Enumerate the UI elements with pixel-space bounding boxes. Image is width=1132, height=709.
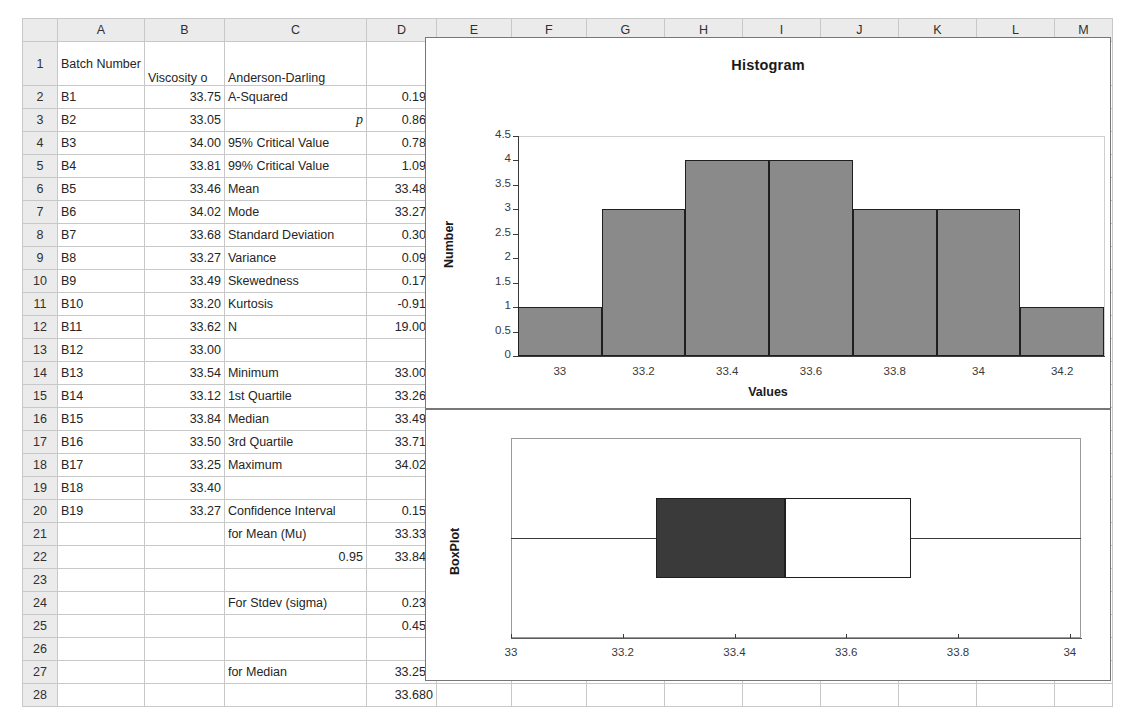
row-header[interactable]: 4 xyxy=(23,132,58,155)
cell-b[interactable]: 33.27 xyxy=(144,247,224,270)
row-header[interactable]: 18 xyxy=(23,454,58,477)
cell-a[interactable]: B17 xyxy=(58,454,145,477)
cell-b[interactable]: 33.54 xyxy=(144,362,224,385)
cell-c[interactable]: Mean xyxy=(224,178,366,201)
cell-c[interactable]: Mode xyxy=(224,201,366,224)
row-header[interactable]: 27 xyxy=(23,661,58,684)
row-header[interactable]: 15 xyxy=(23,385,58,408)
cell-c[interactable] xyxy=(224,684,366,707)
cell-blank-6[interactable] xyxy=(898,684,976,707)
cell-blank-7[interactable] xyxy=(976,684,1054,707)
row-header[interactable]: 20 xyxy=(23,500,58,523)
row-header[interactable]: 14 xyxy=(23,362,58,385)
cell-c[interactable] xyxy=(224,569,366,592)
cell-a[interactable]: B9 xyxy=(58,270,145,293)
cell-a[interactable]: B16 xyxy=(58,431,145,454)
row-header[interactable]: 13 xyxy=(23,339,58,362)
cell-a[interactable] xyxy=(58,569,145,592)
cell-c[interactable]: 0.95 xyxy=(224,546,366,569)
cell-b[interactable]: 33.20 xyxy=(144,293,224,316)
cell-b[interactable]: 33.84 xyxy=(144,408,224,431)
cell-a[interactable]: B7 xyxy=(58,224,145,247)
cell-a[interactable]: B14 xyxy=(58,385,145,408)
cell-a[interactable]: B3 xyxy=(58,132,145,155)
cell-a[interactable]: B1 xyxy=(58,86,145,109)
cell-c[interactable]: Standard Deviation xyxy=(224,224,366,247)
select-all-corner[interactable] xyxy=(23,19,58,42)
cell-c[interactable] xyxy=(224,615,366,638)
row-header[interactable]: 22 xyxy=(23,546,58,569)
cell-b[interactable]: 33.25 xyxy=(144,454,224,477)
cell-c[interactable]: for Median xyxy=(224,661,366,684)
cell-b[interactable]: 33.68 xyxy=(144,224,224,247)
cell-c[interactable]: for Mean (Mu) xyxy=(224,523,366,546)
row-header[interactable]: 17 xyxy=(23,431,58,454)
cell-a[interactable]: B2 xyxy=(58,109,145,132)
cell-c[interactable]: 1st Quartile xyxy=(224,385,366,408)
row-header[interactable]: 12 xyxy=(23,316,58,339)
cell-b[interactable] xyxy=(144,615,224,638)
cell-c[interactable] xyxy=(224,339,366,362)
column-header-b[interactable]: B xyxy=(144,19,224,42)
cell-b[interactable]: 33.81 xyxy=(144,155,224,178)
cell-c[interactable]: Minimum xyxy=(224,362,366,385)
cell-b[interactable] xyxy=(144,523,224,546)
cell-b1[interactable]: Viscosity o xyxy=(144,42,224,86)
boxplot-chart-panel[interactable]: BoxPlot 3333.233.433.633.834 xyxy=(425,409,1111,681)
row-header[interactable]: 6 xyxy=(23,178,58,201)
cell-b[interactable]: 33.40 xyxy=(144,477,224,500)
cell-b[interactable]: 34.02 xyxy=(144,201,224,224)
cell-b[interactable]: 33.00 xyxy=(144,339,224,362)
cell-c[interactable]: 3rd Quartile xyxy=(224,431,366,454)
cell-b[interactable] xyxy=(144,569,224,592)
cell-b[interactable]: 33.75 xyxy=(144,86,224,109)
cell-a[interactable]: B8 xyxy=(58,247,145,270)
cell-c[interactable]: Maximum xyxy=(224,454,366,477)
cell-b[interactable] xyxy=(144,592,224,615)
row-header[interactable]: 8 xyxy=(23,224,58,247)
cell-a[interactable] xyxy=(58,546,145,569)
cell-a[interactable]: B5 xyxy=(58,178,145,201)
cell-c[interactable]: Skewedness xyxy=(224,270,366,293)
cell-a[interactable] xyxy=(58,684,145,707)
cell-a[interactable]: B19 xyxy=(58,500,145,523)
row-header[interactable]: 26 xyxy=(23,638,58,661)
cell-b[interactable]: 33.12 xyxy=(144,385,224,408)
cell-blank-2[interactable] xyxy=(586,684,664,707)
cell-d[interactable]: 33.680 xyxy=(366,684,436,707)
cell-blank-4[interactable] xyxy=(742,684,820,707)
cell-a[interactable] xyxy=(58,592,145,615)
row-header[interactable]: 2 xyxy=(23,86,58,109)
cell-c[interactable]: Confidence Interval xyxy=(224,500,366,523)
cell-c[interactable] xyxy=(224,638,366,661)
cell-a[interactable]: B12 xyxy=(58,339,145,362)
cell-a[interactable]: B6 xyxy=(58,201,145,224)
row-header[interactable]: 1 xyxy=(23,42,58,86)
cell-c[interactable]: 95% Critical Value xyxy=(224,132,366,155)
cell-c[interactable] xyxy=(224,477,366,500)
row-header[interactable]: 10 xyxy=(23,270,58,293)
cell-c[interactable]: A-Squared xyxy=(224,86,366,109)
cell-b[interactable] xyxy=(144,638,224,661)
cell-a[interactable]: B10 xyxy=(58,293,145,316)
cell-b[interactable] xyxy=(144,661,224,684)
cell-a[interactable]: B4 xyxy=(58,155,145,178)
row-header[interactable]: 19 xyxy=(23,477,58,500)
cell-blank-5[interactable] xyxy=(820,684,898,707)
row-header[interactable]: 21 xyxy=(23,523,58,546)
cell-blank-1[interactable] xyxy=(511,684,586,707)
table-row[interactable]: 2833.680 xyxy=(23,684,1113,707)
cell-b[interactable] xyxy=(144,684,224,707)
cell-blank-3[interactable] xyxy=(664,684,742,707)
row-header[interactable]: 7 xyxy=(23,201,58,224)
cell-c[interactable]: Kurtosis xyxy=(224,293,366,316)
cell-a[interactable]: B13 xyxy=(58,362,145,385)
row-header[interactable]: 3 xyxy=(23,109,58,132)
row-header[interactable]: 23 xyxy=(23,569,58,592)
cell-b[interactable] xyxy=(144,546,224,569)
cell-a[interactable] xyxy=(58,523,145,546)
cell-b[interactable]: 33.62 xyxy=(144,316,224,339)
cell-blank-8[interactable] xyxy=(1054,684,1112,707)
cell-b[interactable]: 33.05 xyxy=(144,109,224,132)
cell-c[interactable]: N xyxy=(224,316,366,339)
